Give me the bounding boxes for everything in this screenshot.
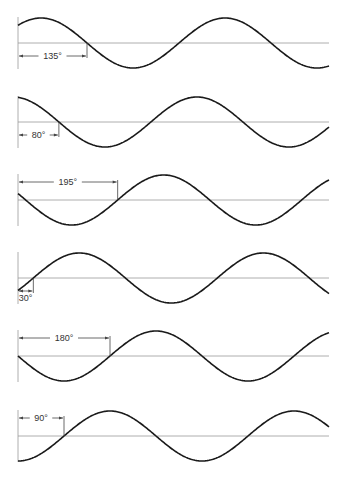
phase-label: 195° [59, 177, 78, 187]
phase-label: 80° [32, 130, 46, 140]
phase-shift-diagram: 135°80°195°30°180°90° [0, 0, 345, 477]
arrowhead-left-icon [19, 133, 23, 136]
arrowhead-left-icon [19, 180, 23, 183]
arrowhead-right-icon [113, 180, 117, 183]
phase-label: 180° [55, 333, 74, 343]
wave-panel: 90° [18, 410, 329, 462]
arrowhead-right-icon [82, 54, 86, 57]
phase-label: 30° [19, 293, 33, 303]
phase-label: 90° [34, 413, 48, 423]
arrowhead-left-icon [19, 416, 23, 419]
wave-panel: 80° [18, 96, 329, 148]
arrowhead-right-icon [59, 416, 63, 419]
wave-panel: 135° [18, 17, 329, 69]
arrowhead-right-icon [54, 133, 58, 136]
wave-panel: 30° [18, 252, 329, 304]
arrowhead-left-icon [19, 336, 23, 339]
wave-panel: 180° [18, 330, 329, 382]
wave-panel: 195° [18, 174, 329, 226]
arrowhead-right-icon [105, 336, 109, 339]
phase-label: 135° [43, 51, 62, 61]
arrowhead-left-icon [19, 54, 23, 57]
